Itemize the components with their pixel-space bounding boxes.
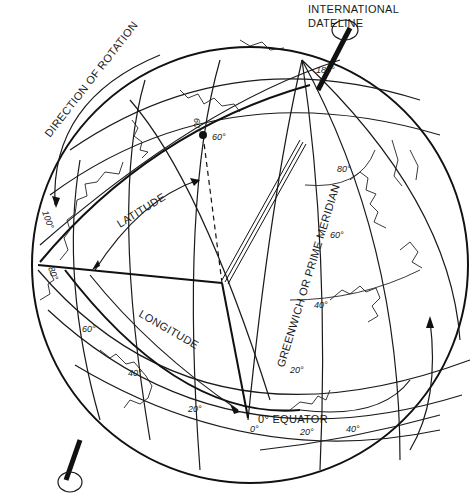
deg-meridian-80: 80° — [337, 164, 351, 174]
continents — [40, 40, 422, 410]
dateline-label-line2: DATELINE — [308, 17, 363, 29]
deg-equator-20: 20° — [299, 427, 314, 437]
dateline-label-line1: INTERNATIONAL — [308, 3, 399, 15]
parallels — [38, 60, 470, 450]
prime-meridian-label: GREENWICH OR PRIME MERIDIAN — [274, 183, 341, 369]
meridians — [73, 60, 460, 470]
deg-equator-0: 0° — [250, 424, 259, 434]
deg-lower-20: 20° — [187, 404, 202, 414]
deg-lower-40: 40° — [128, 368, 142, 378]
deg-left-100: 100° — [40, 209, 56, 230]
deg-lower-60: 60° — [82, 324, 96, 334]
deg-meridian-60: 60° — [330, 230, 344, 240]
longitude-label: LONGITUDE — [137, 307, 201, 351]
deg-equator-40: 40° — [346, 424, 360, 434]
deg-lat-60-horizontal: 60° — [212, 132, 226, 142]
direction-of-rotation-label: DIRECTION OF ROTATION — [42, 19, 140, 139]
deg-meridian-20: 20° — [289, 365, 304, 375]
deg-180: 180° — [316, 65, 335, 75]
equator-label: 0° EQUATOR — [258, 413, 328, 425]
deg-lat-60-vertical: 60° — [192, 118, 202, 132]
latitude-label: LATITUDE — [115, 190, 168, 229]
globe-diagram: INTERNATIONAL DATELINE DIRECTION OF ROTA… — [0, 0, 472, 503]
deg-meridian-40: 40° — [314, 300, 328, 310]
